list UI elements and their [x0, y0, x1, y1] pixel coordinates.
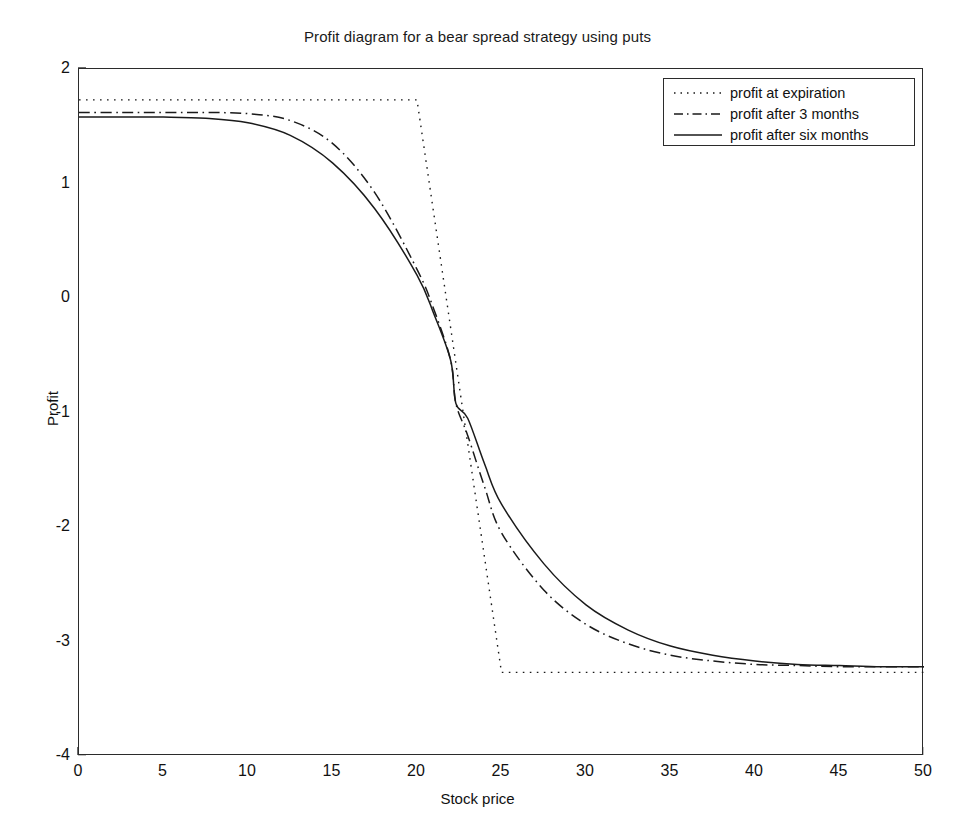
legend-label-3-months: profit after 3 months	[724, 106, 859, 122]
series-line-2	[79, 117, 924, 667]
chart-figure: Profit diagram for a bear spread strateg…	[0, 0, 955, 823]
y-tick-label: 2	[40, 59, 70, 77]
x-tick-label: 35	[650, 762, 690, 780]
x-tick-label: 5	[143, 762, 183, 780]
legend-item-expiration: profit at expiration	[664, 82, 914, 103]
legend-label-six-months: profit after six months	[724, 127, 869, 143]
legend-label-expiration: profit at expiration	[724, 85, 845, 101]
y-tick-label: -2	[40, 517, 70, 535]
x-axis-tick-labels: 05101520253035404550	[0, 762, 955, 788]
x-axis-label: Stock price	[0, 790, 955, 807]
legend-swatch-solid-icon	[672, 129, 724, 141]
x-tick-label: 50	[903, 762, 943, 780]
y-axis-tick-labels: 210-1-2-3-4	[34, 0, 70, 823]
y-tick-label: 0	[40, 288, 70, 306]
legend-item-3-months: profit after 3 months	[664, 103, 914, 124]
x-tick-label: 10	[227, 762, 267, 780]
legend-swatch-dashdot-icon	[672, 108, 724, 120]
x-tick-label: 40	[734, 762, 774, 780]
series-line-1	[79, 112, 924, 666]
x-tick-label: 20	[396, 762, 436, 780]
chart-legend: profit at expiration profit after 3 mont…	[663, 78, 915, 146]
x-tick-label: 45	[819, 762, 859, 780]
y-tick-label: -3	[40, 632, 70, 650]
legend-item-six-months: profit after six months	[664, 124, 914, 145]
x-tick-label: 30	[565, 762, 605, 780]
chart-title: Profit diagram for a bear spread strateg…	[0, 28, 955, 45]
plot-area	[78, 68, 923, 755]
legend-swatch-dotted-icon	[672, 87, 724, 99]
series-canvas	[79, 69, 924, 756]
series-line-0	[79, 100, 924, 673]
y-tick-label: -1	[40, 403, 70, 421]
y-tick-label: 1	[40, 174, 70, 192]
x-tick-label: 25	[481, 762, 521, 780]
x-tick-label: 15	[312, 762, 352, 780]
